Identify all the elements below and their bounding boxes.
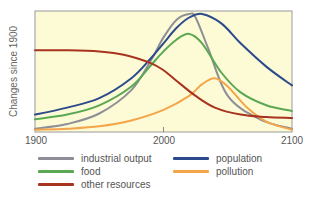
x-tick-label-1900: 1900 [25,135,47,146]
legend-item-pollution: pollution [173,165,253,178]
line-chart [0,0,315,145]
x-tick-label-2000: 2000 [153,135,175,146]
y-axis-label: Changes since 1900 [4,11,24,132]
legend-swatch [38,170,74,173]
legend-item-other-resources: other resources [38,178,150,191]
legend-swatch [173,170,209,173]
legend-label: industrial output [81,153,152,164]
legend-item-food: food [38,165,100,178]
legend-label: other resources [81,179,150,190]
legend-item-industrial-output: industrial output [38,152,152,165]
legend-item-population: population [173,152,262,165]
legend-label: pollution [216,166,253,177]
chart-legend: industrial output population food pollut… [0,150,315,200]
legend-swatch [173,157,209,160]
legend-swatch [38,183,74,186]
legend-label: population [216,153,262,164]
legend-swatch [38,157,74,160]
x-tick-label-2100: 2100 [281,135,303,146]
legend-label: food [81,166,100,177]
